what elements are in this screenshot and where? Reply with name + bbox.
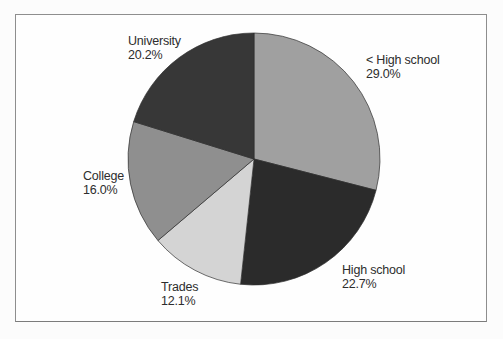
slice-label-high-school: High school 22.7% (342, 264, 405, 291)
slice-percent: 16.0% (83, 184, 124, 198)
slice-percent: 20.2% (128, 49, 181, 63)
scanned-chart-page: < High school 29.0% High school 22.7% Tr… (0, 0, 503, 339)
slice-label-lt-high-school: < High school 29.0% (366, 54, 440, 81)
chart-frame: < High school 29.0% High school 22.7% Tr… (15, 14, 487, 322)
slice-percent: 29.0% (366, 68, 440, 82)
slice-name: High school (342, 264, 405, 278)
slice-label-trades: Trades 12.1% (161, 281, 198, 308)
slice-label-college: College 16.0% (83, 170, 124, 197)
slice-name: University (128, 35, 181, 49)
slice-percent: 12.1% (161, 295, 198, 309)
slice-name: Trades (161, 281, 198, 295)
slice-label-university: University 20.2% (128, 35, 181, 62)
slice-name: < High school (366, 54, 440, 68)
slice-percent: 22.7% (342, 278, 405, 292)
slice-name: College (83, 170, 124, 184)
